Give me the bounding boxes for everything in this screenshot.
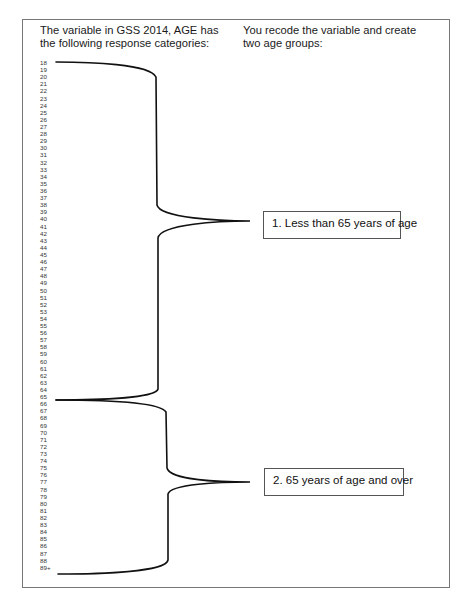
group-2-box: 2. 65 years of age and over bbox=[264, 468, 404, 496]
group-1-box: 1. Less than 65 years of age bbox=[263, 211, 401, 239]
bracket-group-2 bbox=[56, 400, 250, 574]
bracket-group-1 bbox=[56, 62, 250, 400]
grouping-brackets bbox=[0, 0, 470, 605]
